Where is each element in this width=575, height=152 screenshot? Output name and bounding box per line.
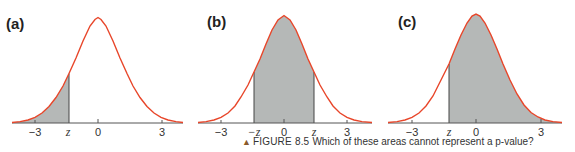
panel-a-tick-label-minus3: −3 — [29, 126, 42, 138]
panel-a-label: (a) — [6, 15, 24, 32]
figure-canvas: (a) −3 z 0 3 (b) −3 −z 0 z 3 (c) — [0, 0, 575, 152]
panel-c-tick-label-3: 3 — [538, 126, 544, 138]
figure-caption: ▲FIGURE 8.5Which of these areas cannot r… — [242, 136, 534, 147]
panel-a-shaded-area — [12, 74, 69, 124]
caption-text: Which of these areas cannot represent a … — [312, 136, 533, 147]
panel-c: (c) −3 z 0 3 — [388, 13, 562, 139]
panel-b-label: (b) — [207, 13, 226, 30]
panel-a-normal-curve — [12, 18, 183, 123]
panel-b-tick-label-minus3: −3 — [215, 126, 228, 138]
panel-a: (a) −3 z 0 3 — [6, 15, 183, 139]
panel-a-tick-label-z: z — [65, 125, 71, 139]
figure-number: FIGURE 8.5 — [253, 136, 309, 147]
panel-b-shaded-area — [254, 16, 314, 124]
panel-b: (b) −3 −z 0 z 3 — [198, 13, 372, 139]
triangle-icon: ▲ — [242, 137, 251, 147]
panel-a-tick-label-3: 3 — [159, 126, 165, 138]
panel-c-label: (c) — [398, 13, 416, 30]
panel-a-tick-label-0: 0 — [95, 126, 101, 138]
